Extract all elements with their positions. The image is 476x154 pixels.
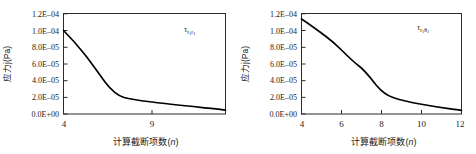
data-curve <box>302 19 462 110</box>
y-tick-label: 2.0E–05 <box>32 93 59 102</box>
plot-frame <box>302 14 462 115</box>
y-axis-title-right: 应力j(Pa) <box>240 46 250 82</box>
plot-frame <box>64 14 226 115</box>
y-tick-label: 4.0E–05 <box>32 76 59 85</box>
series-label-right: τr1θ1 <box>417 23 429 34</box>
x-tick-marks <box>342 110 422 114</box>
x-tick-label: 6 <box>339 119 344 129</box>
y-tick-label: 1.0E–04 <box>32 27 59 36</box>
chart-panel-left: 应力j(Pa) 1.2E–04 1.0E–04 8.0E–05 6.0E–05 … <box>0 0 238 154</box>
figure-container: 应力j(Pa) 1.2E–04 1.0E–04 8.0E–05 6.0E–05 … <box>0 0 476 154</box>
x-tick-label: 10 <box>417 119 427 129</box>
chart-panel-right: 应力j(Pa) 1.2E–04 1.0E–04 8.0E–05 6.0E–05 … <box>238 0 476 154</box>
y-tick-marks <box>302 14 306 114</box>
y-tick-label: 0.0E+00 <box>32 110 59 119</box>
y-tick-label: 0.0E+00 <box>270 110 297 119</box>
x-tick-label: 12 <box>456 119 465 129</box>
y-tick-label: 6.0E–05 <box>32 60 59 69</box>
x-tick-label: 8 <box>379 119 384 129</box>
y-tick-label: 4.0E–05 <box>270 76 297 85</box>
x-tick-label: 9 <box>150 119 155 129</box>
y-tick-label: 2.0E–05 <box>270 93 297 102</box>
y-tick-label: 8.0E–05 <box>270 43 297 52</box>
y-tick-label: 1.0E–04 <box>270 27 297 36</box>
y-tick-label: 1.2E–04 <box>270 10 297 19</box>
y-tick-marks <box>64 14 68 114</box>
x-axis-title-left: 计算截断项数(n) <box>113 136 178 147</box>
y-axis-title-left: 应力j(Pa) <box>2 46 12 82</box>
x-tick-label: 4 <box>62 119 67 129</box>
x-axis-title-right: 计算截断项数(n) <box>351 136 416 147</box>
y-tick-label: 6.0E–05 <box>270 60 297 69</box>
y-tick-label: 8.0E–05 <box>32 43 59 52</box>
x-tick-label: 4 <box>300 119 305 129</box>
data-curve <box>64 31 226 111</box>
series-label-left: τr1r1 <box>184 25 195 36</box>
y-tick-label: 1.2E–04 <box>32 10 59 19</box>
